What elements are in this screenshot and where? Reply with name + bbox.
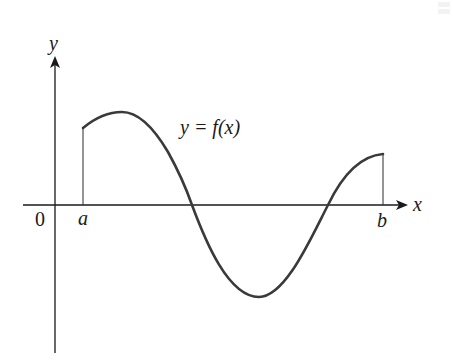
y-axis-label: y [47,32,58,55]
function-graph: y x 0 a b y = f(x) [0,0,453,360]
left-bound-label: a [78,207,88,229]
origin-label: 0 [35,208,45,230]
curve-label: y = f(x) [178,116,240,139]
x-axis-label: x [412,193,422,215]
corner-artifact [438,2,450,7]
corner-artifact [438,9,450,14]
right-bound-label: b [377,209,387,231]
